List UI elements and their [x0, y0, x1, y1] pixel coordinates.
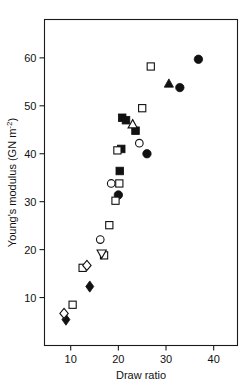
data-points [60, 55, 203, 325]
marker-open-square [139, 105, 146, 112]
x-tick-label: 40 [208, 353, 220, 365]
marker-open-circle [136, 139, 144, 147]
x-axis-ticks: 10203040 [65, 346, 220, 365]
y-axis-ticks: 102030405060 [24, 52, 44, 304]
marker-filled-square [122, 116, 130, 124]
series-filled-triangle-up [164, 79, 173, 87]
x-axis-title: Draw ratio [116, 369, 166, 381]
marker-open-circle [107, 180, 115, 188]
marker-filled-diamond [86, 281, 94, 292]
y-tick-label: 30 [24, 196, 36, 208]
marker-open-circle [96, 236, 104, 244]
marker-filled-circle [143, 150, 151, 158]
scatter-plot: 10203040 102030405060 Draw ratioYoung's … [0, 0, 250, 390]
y-tick-label: 60 [24, 52, 36, 64]
marker-filled-triangle-up [164, 79, 173, 87]
y-tick-label: 50 [24, 100, 36, 112]
marker-open-square [69, 301, 76, 308]
series-filled-diamond [62, 281, 94, 325]
y-tick-label: 40 [24, 148, 36, 160]
chart-container: 10203040 102030405060 Draw ratioYoung's … [0, 0, 250, 390]
y-tick-label: 20 [24, 244, 36, 256]
marker-filled-circle [176, 83, 184, 91]
marker-open-square [116, 180, 123, 187]
x-tick-label: 10 [65, 353, 77, 365]
y-axis-title: Young's modulus (GN m-2) [5, 118, 19, 247]
y-tick-label: 10 [24, 292, 36, 304]
marker-open-square [114, 147, 121, 154]
x-tick-label: 30 [160, 353, 172, 365]
x-tick-label: 20 [112, 353, 124, 365]
plot-frame [45, 20, 238, 346]
marker-open-square [106, 222, 113, 229]
marker-open-square [147, 63, 154, 70]
plot-frame-rect [45, 20, 238, 346]
marker-open-square [112, 197, 119, 204]
series-open-diamond [60, 260, 91, 318]
series-filled-circle [114, 55, 202, 199]
marker-filled-square [116, 167, 124, 175]
marker-filled-circle [194, 55, 202, 63]
